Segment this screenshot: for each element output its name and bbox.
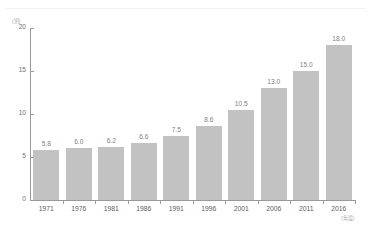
bar	[163, 136, 189, 201]
x-axis-tick-label: 1981	[95, 206, 128, 213]
bar-value-label: 6.2	[95, 138, 128, 145]
x-axis-tick-label: 1971	[30, 206, 63, 213]
x-axis-tick-label: 2001	[225, 206, 258, 213]
x-axis-tick-label: 2016	[323, 206, 356, 213]
bar	[326, 45, 352, 200]
bar	[261, 88, 287, 200]
bar-value-label: 5.8	[30, 141, 63, 148]
x-axis-tick-label: 1991	[160, 206, 193, 213]
y-axis-tick-label-wrap: 20	[2, 24, 26, 32]
y-axis-tick-label-wrap: 0	[2, 196, 26, 204]
y-axis-tick-label-wrap: 15	[2, 67, 26, 75]
y-axis-tick	[30, 200, 34, 201]
y-axis-tick-label: 5	[4, 153, 26, 160]
bar-value-label: 15.0	[290, 62, 323, 69]
x-axis-tick	[63, 200, 64, 204]
x-axis-tick-label: 1976	[63, 206, 96, 213]
bar-value-label: 10.5	[225, 101, 258, 108]
bar-value-label: 7.5	[160, 127, 193, 134]
bar	[98, 147, 124, 200]
x-axis-unit-label: (年度)	[341, 214, 354, 221]
x-axis-tick	[193, 200, 194, 204]
y-axis-tick-label: 15	[4, 67, 26, 74]
y-axis-tick-label-wrap: 5	[2, 153, 26, 161]
bar-value-label: 8.6	[193, 117, 226, 124]
y-axis-tick-label: 10	[4, 110, 26, 117]
x-axis-tick	[290, 200, 291, 204]
y-axis-tick-label-wrap: 10	[2, 110, 26, 118]
bar	[196, 126, 222, 200]
x-axis-tick-label: 1986	[128, 206, 161, 213]
y-axis-tick-label: 0	[4, 196, 26, 203]
bars-layer	[30, 28, 355, 200]
bar	[33, 150, 59, 200]
x-axis-tick	[323, 200, 324, 204]
bar	[131, 143, 157, 200]
bar-value-label: 6.0	[63, 139, 96, 146]
bar-value-label: 18.0	[323, 36, 356, 43]
x-axis-tick-label: 2011	[290, 206, 323, 213]
bar-chart: (別) (年度) 05101520 5.86.06.26.67.58.610.5…	[0, 0, 371, 241]
bar	[66, 148, 92, 200]
x-axis-tick	[95, 200, 96, 204]
bar	[228, 110, 254, 200]
top-divider	[6, 8, 365, 9]
x-axis-tick	[355, 200, 356, 204]
x-axis-tick	[128, 200, 129, 204]
x-axis-tick	[160, 200, 161, 204]
x-axis-tick	[258, 200, 259, 204]
y-axis-tick-label: 20	[4, 24, 26, 31]
bar-value-label: 6.6	[128, 134, 161, 141]
x-axis-tick	[225, 200, 226, 204]
x-axis-tick-label: 1996	[193, 206, 226, 213]
bar	[293, 71, 319, 200]
bar-value-label: 13.0	[258, 79, 291, 86]
x-axis-tick-label: 2006	[258, 206, 291, 213]
